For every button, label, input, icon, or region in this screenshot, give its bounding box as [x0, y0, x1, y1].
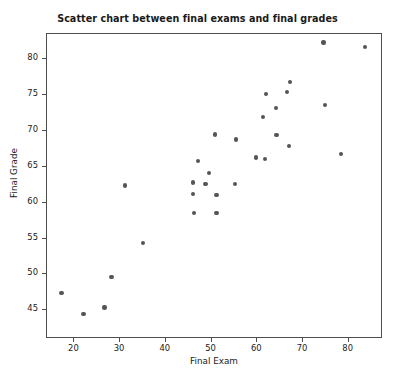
scatter-point	[191, 192, 195, 196]
x-axis-tick	[256, 338, 257, 342]
y-axis-tick-label: 80	[2, 52, 38, 62]
scatter-point	[196, 159, 200, 163]
scatter-point	[261, 115, 265, 119]
scatter-point	[81, 312, 85, 316]
scatter-point	[141, 241, 145, 245]
scatter-point	[123, 183, 127, 187]
x-axis-tick-label: 50	[191, 343, 231, 353]
y-axis-tick-label: 70	[2, 124, 38, 134]
y-axis-tick-label: 60	[2, 196, 38, 206]
scatter-point	[321, 40, 325, 44]
scatter-chart-figure: Scatter chart between final exams and fi…	[0, 0, 395, 380]
scatter-point	[234, 137, 238, 141]
scatter-point	[264, 92, 268, 96]
scatter-point	[323, 103, 327, 107]
scatter-point	[287, 144, 291, 148]
scatter-point	[254, 155, 258, 159]
plot-area	[46, 33, 382, 338]
scatter-point	[263, 157, 267, 161]
scatter-point	[233, 182, 237, 186]
x-axis-tick-label: 30	[99, 343, 139, 353]
scatter-point	[109, 275, 113, 279]
x-axis-tick-label: 70	[282, 343, 322, 353]
y-axis-tick-label: 50	[2, 267, 38, 277]
scatter-point	[203, 182, 207, 186]
x-axis-tick	[302, 338, 303, 342]
scatter-points-layer	[47, 34, 381, 337]
y-axis-tick-label: 45	[2, 303, 38, 313]
y-axis-tick	[42, 238, 46, 239]
scatter-point	[214, 211, 218, 215]
scatter-point	[339, 152, 343, 156]
x-axis-tick	[211, 338, 212, 342]
y-axis-tick-label: 65	[2, 160, 38, 170]
scatter-point	[207, 171, 211, 175]
scatter-point	[102, 305, 106, 309]
scatter-point	[288, 80, 292, 84]
scatter-point	[59, 291, 63, 295]
x-axis-label: Final Exam	[46, 356, 382, 366]
y-axis-tick	[42, 273, 46, 274]
y-axis-tick	[42, 166, 46, 167]
x-axis-tick	[119, 338, 120, 342]
y-axis-tick	[42, 130, 46, 131]
scatter-point	[274, 133, 278, 137]
x-axis-tick	[165, 338, 166, 342]
scatter-point	[285, 90, 289, 94]
y-axis-tick	[42, 202, 46, 203]
chart-title: Scatter chart between final exams and fi…	[0, 13, 395, 24]
x-axis-tick-label: 40	[145, 343, 185, 353]
y-axis-tick	[42, 58, 46, 59]
y-axis-tick	[42, 94, 46, 95]
y-axis-tick-label: 75	[2, 88, 38, 98]
y-axis-tick-label: 55	[2, 232, 38, 242]
scatter-point	[192, 211, 196, 215]
scatter-point	[363, 45, 367, 49]
x-axis-tick-label: 80	[328, 343, 368, 353]
x-axis-tick-label: 60	[236, 343, 276, 353]
scatter-point	[274, 106, 278, 110]
scatter-point	[214, 193, 218, 197]
y-axis-label: Final Grade	[9, 123, 19, 223]
x-axis-tick	[348, 338, 349, 342]
y-axis-tick	[42, 309, 46, 310]
scatter-point	[213, 132, 217, 136]
x-axis-tick-label: 20	[53, 343, 93, 353]
scatter-point	[191, 180, 195, 184]
x-axis-tick	[73, 338, 74, 342]
